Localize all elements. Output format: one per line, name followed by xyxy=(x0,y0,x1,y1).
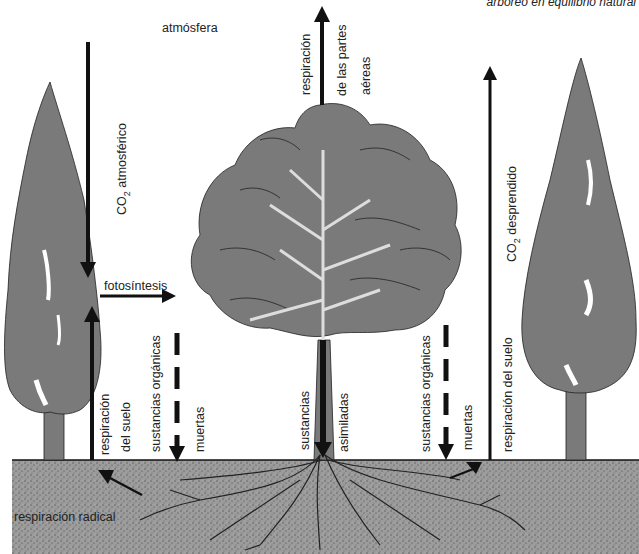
respiration-aerial-label-3: aéreas xyxy=(359,57,373,95)
root-respiration-label: respiración radical xyxy=(14,510,115,524)
arrow-dead-organic-left xyxy=(169,333,185,462)
arrow-dead-organic-right xyxy=(438,325,454,460)
dead-organic-right-label-2: muertas xyxy=(461,405,475,450)
dead-organic-left-label-1: sustancias orgánicas xyxy=(149,335,163,452)
assimilated-label-1: sustancias xyxy=(298,391,312,450)
photosynthesis-label: fotosíntesis xyxy=(104,279,167,293)
soil-respiration-right-label: respiración del suelo xyxy=(501,337,515,452)
co2-released-label: CO2 desprendido xyxy=(505,166,522,262)
arrow-respiration-aerial xyxy=(314,6,330,105)
co2-atmospheric-label: CO2 atmosférico xyxy=(115,123,132,215)
respiration-aerial-label-2: de las partes xyxy=(335,24,349,96)
atmosphere-label: atmósfera xyxy=(162,21,218,35)
arrow-co2-released xyxy=(483,66,497,460)
dead-organic-right-label-1: sustancias orgánicas xyxy=(419,335,433,452)
dead-organic-left-label-2: muertas xyxy=(193,407,207,452)
soil-respiration-left-label-1: respiración xyxy=(98,394,112,455)
soil-respiration-left-label-2: del suelo xyxy=(119,402,133,452)
right-cypress-tree xyxy=(522,58,636,460)
diagram-title: arbóreo en equilibrio natural xyxy=(487,0,637,9)
respiration-aerial-label-1: respiración xyxy=(299,34,313,95)
carbon-cycle-diagram: arbóreo en equilibrio natural atmósfera xyxy=(0,0,639,554)
assimilated-label-2: asimiladas xyxy=(337,393,351,452)
